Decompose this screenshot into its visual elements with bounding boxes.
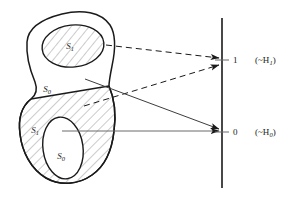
axis-value-zero: 0	[233, 127, 238, 137]
axis-value-one: 1	[233, 55, 238, 65]
axis-hypothesis-h1: (~H1)	[255, 55, 276, 66]
axis-hypothesis-h0: (~H0)	[255, 127, 276, 138]
diagram-canvas: S1 S0 S1 S0 1 0 (~H1) (~H0)	[0, 0, 301, 203]
decision-axis: 1 0 (~H1) (~H0)	[215, 18, 276, 188]
decision-regions-figure: S1 S0 S1 S0 1 0 (~H1) (~H0)	[0, 0, 301, 203]
sample-space-blob: S1 S0 S1 S0	[10, 12, 130, 195]
arrow-upper-s1-to-one	[106, 45, 219, 58]
